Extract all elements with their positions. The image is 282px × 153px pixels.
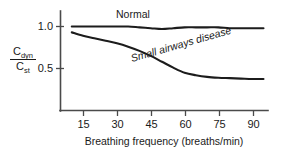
series-line-small-airways-disease <box>72 32 264 79</box>
series-line-normal <box>72 26 264 29</box>
curve-label-small-airways-disease: Small airways disease <box>129 24 232 64</box>
curve-label-small-airways-disease-group: Small airways disease <box>129 24 232 64</box>
plot-area: 1.0 0.5 15 30 45 60 75 90 Normal Small a… <box>0 0 282 153</box>
chart-figure: Cdyn Cst 1.0 0.5 15 30 45 60 75 90 Norma… <box>0 0 282 153</box>
x-tick-label-30: 30 <box>111 118 123 130</box>
curve-label-normal: Normal <box>116 8 150 20</box>
y-tick-label-1.0: 1.0 <box>38 20 53 32</box>
y-tick-label-0.5: 0.5 <box>38 62 53 74</box>
x-tick-label-15: 15 <box>77 118 89 130</box>
x-tick-label-90: 90 <box>247 118 259 130</box>
x-tick-label-75: 75 <box>213 118 225 130</box>
x-tick-label-60: 60 <box>179 118 191 130</box>
x-axis-title: Breathing frequency (breaths/min) <box>85 135 244 147</box>
x-tick-label-45: 45 <box>145 118 157 130</box>
